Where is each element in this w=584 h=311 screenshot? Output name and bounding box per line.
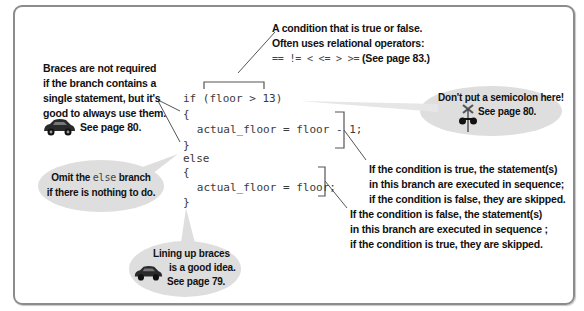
line-up-braces-line-2: is a good idea. [169,260,235,275]
braces-note-line-1: Braces are not required [43,61,166,76]
braces-note: Braces are not required if the branch co… [43,61,166,121]
braces-page-ref: See page 80. [80,120,141,135]
railroad-crossing-icon [458,103,478,133]
line-up-braces-page-ref: See page 79. [167,274,225,289]
omit-else-prefix: Omit the [51,172,93,183]
false-branch-line-2: in this branch are executed in sequence … [350,222,548,237]
true-branch-note: If the condition is true, the statement(… [369,162,566,207]
false-branch-line-1: If the condition is false, the statement… [350,207,548,222]
false-branch-line-3: if the condition is true, they are skipp… [350,237,548,252]
true-branch-line-3: if the condition is false, they are skip… [369,192,566,207]
braces-note-line-2: if the branch contains a [43,76,166,91]
semicolon-tip-page-ref: See page 80. [478,104,536,119]
code-line-close-brace-2: } [183,196,190,210]
car-icon [42,118,76,136]
braces-note-line-3: single statement, but it's [43,91,166,106]
code-line-assign-true: actual_floor = floor - 1; [177,123,362,137]
relational-operators: == != < <= > >= [272,53,359,64]
condition-note-line-2: Often uses relational operators: [272,36,430,51]
true-branch-line-1: If the condition is true, the statement(… [369,162,566,177]
car-icon [133,264,163,282]
code-line-if: if (floor > 13) [183,92,282,106]
true-branch-line-2: in this branch are executed in sequence; [369,177,566,192]
condition-note: A condition that is true or false. Often… [272,21,430,66]
omit-else-suffix: branch [116,172,151,183]
line-up-braces-line-1: Lining up braces [153,246,230,261]
else-keyword: else [93,172,116,183]
code-line-else: else [183,152,210,166]
omit-else-line-2: if there is nothing to do. [38,185,164,200]
condition-note-line-1: A condition that is true or false. [272,21,430,36]
code-line-close-brace-1: } [183,139,190,153]
condition-page-ref: (See page 83.) [362,52,430,64]
omit-else-note: Omit the else branch if there is nothing… [38,170,164,200]
code-line-assign-false: actual_floor = floor; [177,181,336,195]
code-line-open-brace-1: { [183,108,190,122]
semicolon-tip-text: Don't put a semicolon here! [438,90,564,105]
false-branch-note: If the condition is false, the statement… [350,207,548,252]
code-line-open-brace-2: { [183,166,190,180]
